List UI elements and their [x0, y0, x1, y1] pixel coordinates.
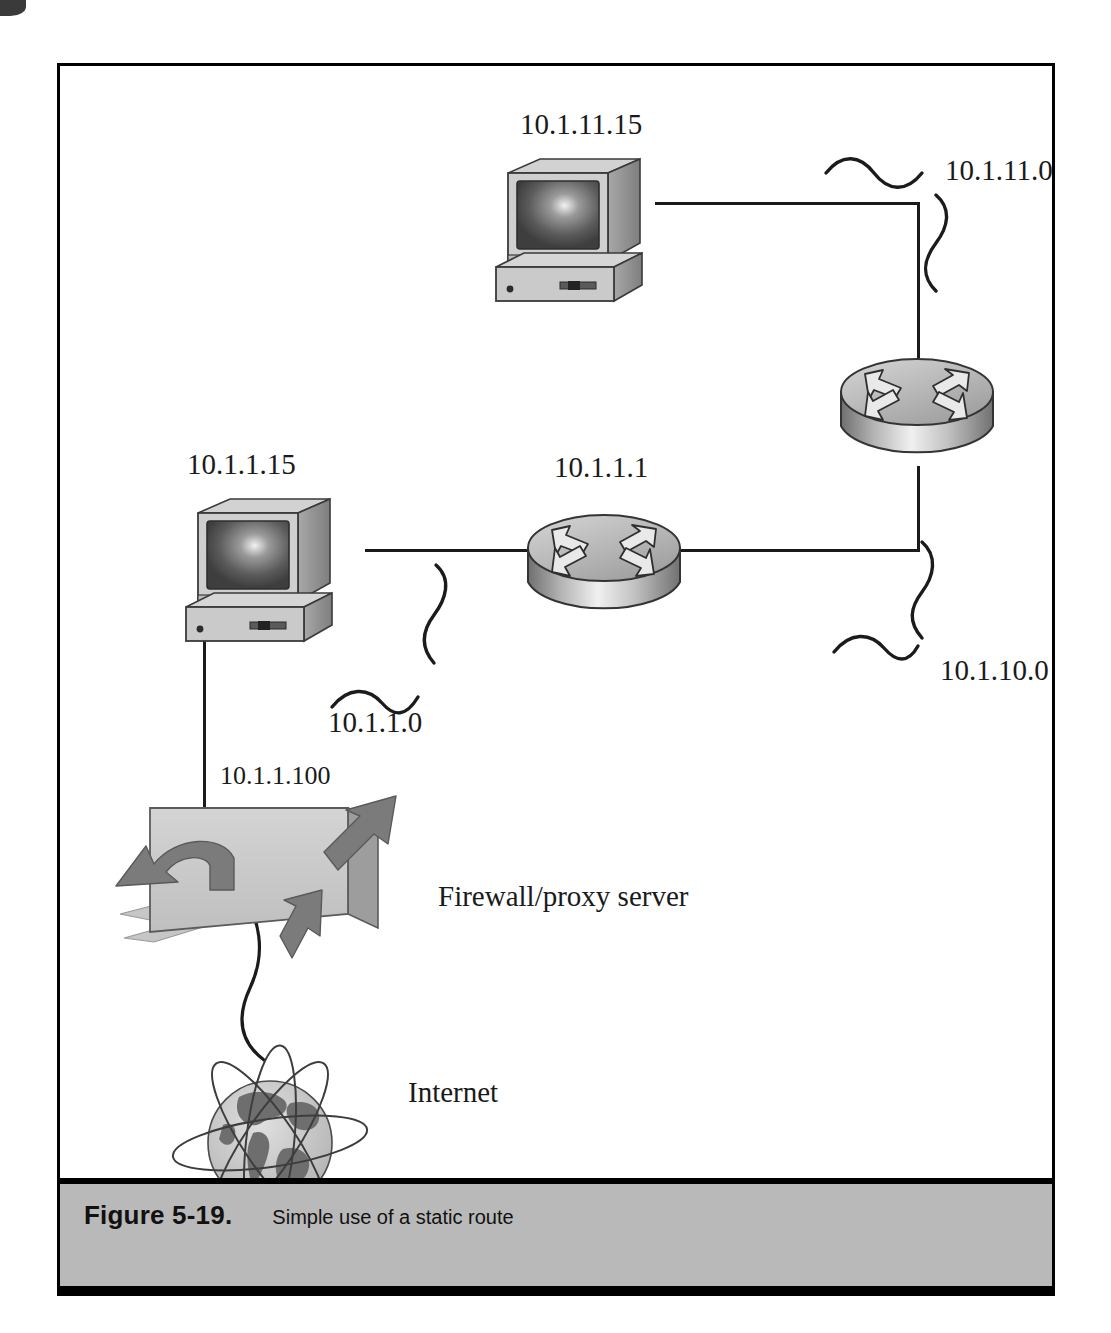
- figure-page: 10.1.11.15: [0, 0, 1111, 1333]
- firewall-name-label: Firewall/proxy server: [438, 880, 688, 913]
- segment-label-10-1-11-0: 10.1.11.0: [945, 154, 1053, 187]
- page-corner-artifact: [0, 0, 26, 16]
- workstation-top[interactable]: [490, 151, 675, 311]
- figure-caption-text: Simple use of a static route: [272, 1206, 513, 1229]
- firewall-ip-label: 10.1.1.100: [220, 761, 331, 791]
- segment-label-10-1-10-0: 10.1.10.0: [940, 654, 1049, 687]
- link-pc-left-to-firewall: [203, 626, 206, 811]
- router-middle[interactable]: [522, 486, 687, 626]
- network-diagram: 10.1.11.15: [60, 66, 1052, 1181]
- figure-frame: 10.1.11.15: [57, 63, 1055, 1296]
- workstation-left[interactable]: [180, 491, 365, 651]
- router-middle-ip-label: 10.1.1.1: [554, 451, 648, 484]
- firewall-proxy-server[interactable]: [110, 786, 470, 986]
- router-top[interactable]: [835, 330, 1000, 470]
- workstation-left-ip-label: 10.1.1.15: [187, 448, 296, 481]
- figure-caption-bar: Figure 5-19. Simple use of a static rout…: [60, 1178, 1052, 1293]
- figure-number: Figure 5-19.: [84, 1200, 232, 1231]
- link-pc-left-to-router-mid: [365, 549, 535, 552]
- internet-label: Internet: [408, 1076, 498, 1109]
- segment-label-10-1-1-0: 10.1.1.0: [328, 706, 422, 739]
- workstation-top-ip-label: 10.1.11.15: [520, 108, 642, 141]
